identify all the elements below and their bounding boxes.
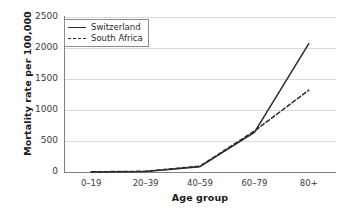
legend-label: South Africa: [91, 33, 143, 44]
series-line-south-africa: [91, 90, 309, 172]
legend-item-south-africa: South Africa: [68, 33, 143, 44]
x-tick-label: 40–59: [187, 178, 213, 188]
x-tick-label: 80+: [300, 178, 318, 188]
x-tick-label: 20–39: [133, 178, 159, 188]
series-line-switzerland: [91, 44, 309, 172]
legend-label: Switzerland: [91, 22, 141, 33]
x-axis-title: Age group: [64, 192, 336, 203]
series-lines: [91, 44, 309, 172]
x-tick-label: 0–19: [81, 178, 101, 188]
mortality-rate-line-chart: Mortality rate per 100,000 0500100015002…: [0, 0, 353, 215]
legend-line-dashed-icon: [68, 34, 86, 44]
legend-line-solid-icon: [68, 23, 86, 33]
legend: Switzerland South Africa: [64, 19, 149, 47]
legend-item-switzerland: Switzerland: [68, 22, 143, 33]
x-tick-label: 60–79: [241, 178, 267, 188]
